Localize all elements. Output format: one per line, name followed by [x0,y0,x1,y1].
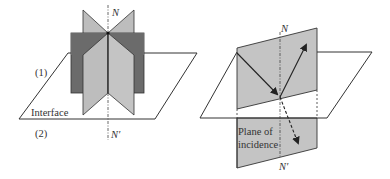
plane-of-incidence-label-line1: Plane of [238,126,273,137]
refraction-planes-figure: N N′ (1) (2) Interface N N′ [0,0,390,179]
normal-bottom-label-right: N′ [278,161,289,172]
medium-1-label: (1) [35,67,48,79]
plane-of-incidence-upper [237,28,317,109]
plane-of-incidence-label-line2: incidence [238,139,279,150]
right-diagram: N N′ Plane of incidence [200,23,372,172]
interface-label: Interface [31,107,69,118]
left-diagram: N N′ (1) (2) Interface [19,5,197,140]
medium-2-label: (2) [35,128,48,140]
light-plane-top-left [83,10,108,33]
normal-top-label-left: N [111,7,120,18]
normal-top-label-right: N [280,23,289,34]
normal-bottom-label-left: N′ [110,129,121,140]
